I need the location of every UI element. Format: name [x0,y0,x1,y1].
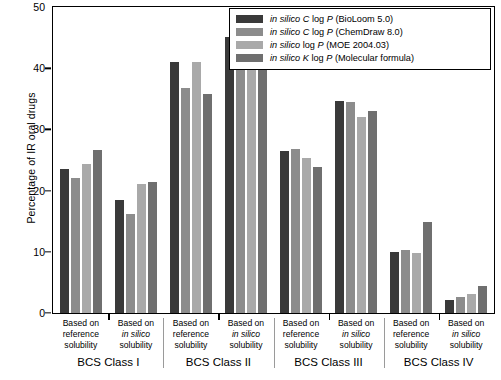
bar [456,297,465,312]
bar [236,53,245,313]
legend-item-2: in silico log P (MOE 2004.03) [236,39,485,51]
bar [60,169,69,313]
x-sublabel-4-2: Based onin silicosolubility [432,318,500,352]
bar [478,286,487,312]
bar [346,102,355,313]
x-group-label-2: BCS Class II [163,356,273,368]
bar [82,164,91,312]
bar [93,150,102,312]
legend-label-3: in silico K log P (Molecular formula) [270,53,414,63]
bar-subgroup-1-1 [53,7,108,312]
y-tick-label-50: 50 [0,1,52,13]
bar [302,158,311,313]
bar [445,300,454,312]
legend-label-2: in silico log P (MOE 2004.03) [270,40,389,50]
bar [247,45,256,313]
legend-label-0: in silico C log P (BioLoom 5.0) [270,14,393,24]
x-sublabel-line: Based on [432,318,500,329]
bar [313,167,322,312]
bar [423,222,432,312]
bar [357,117,366,313]
bar [368,111,377,313]
y-tick-mark-10 [45,251,51,252]
x-sublabel-line: in silico [432,329,500,340]
bar [291,149,300,313]
y-tick-mark-0 [45,312,51,313]
y-tick-mark-40 [45,68,51,69]
legend-swatch-series-1 [236,28,263,36]
bar [115,200,124,313]
y-tick-mark-30 [45,129,51,130]
bar [412,253,421,313]
legend-item-1: in silico C log P (ChemDraw 8.0) [236,26,485,38]
bar [280,151,289,313]
bar [126,214,135,313]
bar [170,62,179,312]
legend-item-3: in silico K log P (Molecular formula) [236,52,485,64]
bar [71,178,80,312]
bar [335,101,344,312]
bar [401,250,410,312]
bar-group-1 [53,7,163,312]
bar [390,252,399,313]
bar [192,62,201,312]
bar [258,62,267,312]
legend-swatch-series-0 [236,15,263,23]
x-group-label-4: BCS Class IV [384,356,494,368]
legend-swatch-series-3 [236,54,263,62]
x-group-label-3: BCS Class III [274,356,384,368]
x-sublabel-line: solubility [432,340,500,351]
y-axis-title: Percentage of IR oral drugs [25,43,37,273]
legend-swatch-series-2 [236,41,263,49]
bar-subgroup-1-2 [108,7,163,312]
bar-subgroup-2-1 [163,7,218,312]
bar [467,294,476,312]
bar [203,94,212,313]
y-tick-mark-20 [45,190,51,191]
x-group-label-1: BCS Class I [53,356,163,368]
legend-item-0: in silico C log P (BioLoom 5.0) [236,13,485,25]
bar [225,37,234,313]
bar [148,182,157,313]
legend-label-1: in silico C log P (ChemDraw 8.0) [270,27,403,37]
bar [137,184,146,312]
bar [181,88,190,313]
bar-chart-figure: Percentage of IR oral drugs 01020304050 … [0,0,501,380]
legend: in silico C log P (BioLoom 5.0) in silic… [229,8,491,70]
